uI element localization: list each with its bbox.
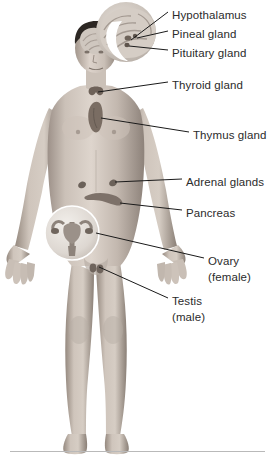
pituitary-marker	[124, 43, 129, 47]
anatomy-illustration	[0, 0, 275, 461]
label-pineal-gland: Pineal gland	[172, 27, 237, 43]
label-ovary: Ovary (female)	[208, 254, 251, 285]
magnified-brain-inset	[96, 2, 156, 62]
hypothalamus-marker	[125, 35, 132, 40]
label-ovary-qualifier: (female)	[208, 270, 251, 286]
label-thymus-gland: Thymus gland	[193, 128, 266, 144]
left-hand	[5, 245, 35, 285]
label-hypothalamus: Hypothalamus	[172, 8, 247, 24]
endocrine-system-diagram: Hypothalamus Pineal gland Pituitary glan…	[0, 0, 275, 461]
label-adrenal-glands: Adrenal glands	[186, 175, 264, 191]
bottom-divider-rule	[10, 451, 265, 452]
label-pituitary-gland: Pituitary gland	[172, 46, 246, 62]
label-pancreas: Pancreas	[186, 206, 235, 222]
label-thyroid-gland: Thyroid gland	[172, 78, 243, 94]
ovary-right-marker	[85, 228, 93, 234]
legs	[63, 262, 129, 454]
label-testis-qualifier: (male)	[172, 310, 205, 326]
label-testis: Testis (male)	[172, 294, 205, 325]
magnified-uterus-ovary-inset	[45, 206, 99, 260]
ovary-left-marker	[51, 228, 59, 234]
